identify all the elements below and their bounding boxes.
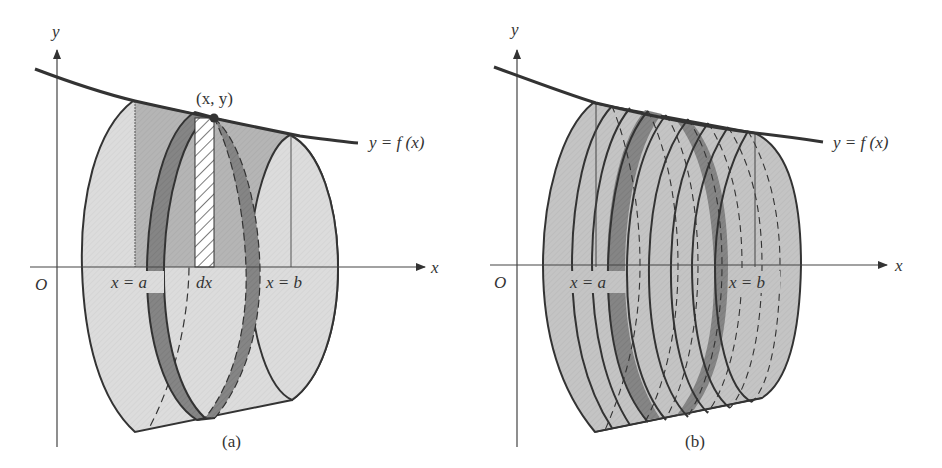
x-axis-label-b: x bbox=[894, 256, 903, 275]
y-axis-label-b: y bbox=[509, 20, 519, 39]
point-xy bbox=[210, 114, 219, 123]
left-bound-label-b: x = a bbox=[569, 273, 606, 292]
caption-a: (a) bbox=[222, 432, 241, 451]
point-label: (x, y) bbox=[196, 89, 233, 108]
origin-label-a: O bbox=[35, 275, 47, 294]
right-bound-label-a: x = b bbox=[265, 273, 302, 292]
panel-b: y x O y = f (x) x = a x = b (b) bbox=[490, 20, 903, 451]
dx-strip bbox=[195, 118, 214, 267]
caption-b: (b) bbox=[685, 432, 705, 451]
panel-a: y x O (x, y) y = f (x) x = a dx x = b (a… bbox=[30, 22, 439, 451]
dx-label: dx bbox=[196, 273, 213, 292]
right-bound-label-b: x = b bbox=[728, 273, 765, 292]
left-bound-label-a: x = a bbox=[110, 273, 147, 292]
figure-canvas: y x O (x, y) y = f (x) x = a dx x = b (a… bbox=[0, 0, 942, 468]
origin-label-b: O bbox=[494, 273, 506, 292]
curve-label-a: y = f (x) bbox=[367, 133, 425, 152]
x-axis-label-a: x bbox=[430, 258, 439, 277]
y-axis-label-a: y bbox=[50, 22, 60, 41]
curve-label-b: y = f (x) bbox=[831, 133, 889, 152]
